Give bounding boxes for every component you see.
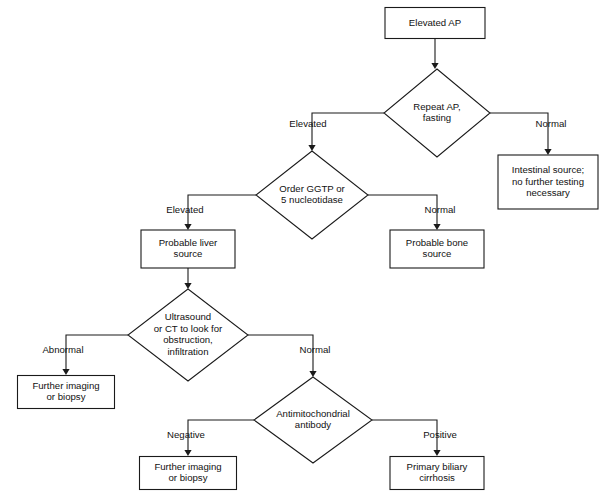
node-text-line: Further imaging — [32, 380, 99, 391]
node-text-line: or CT to look for — [154, 323, 223, 334]
node-text-line: or biopsy — [47, 391, 86, 402]
edge-label: Normal — [300, 344, 331, 355]
flow-edge — [184, 268, 191, 289]
flow-node-ultrasound-ct[interactable]: Ultrasoundor CT to look forobstruction,i… — [128, 289, 248, 381]
node-text-line: source — [174, 248, 203, 259]
flow-node-primary-biliary-cirrhosis[interactable]: Primary biliarycirrhosis — [390, 457, 484, 490]
node-text-line: Further imaging — [154, 461, 221, 472]
node-text-line: source — [423, 248, 452, 259]
edge-label: Elevated — [166, 204, 203, 215]
node-text-line: Intestinal source; — [512, 164, 585, 175]
flow-node-probable-liver-source[interactable]: Probable liversource — [141, 230, 235, 268]
node-text-line: Elevated AP — [409, 17, 461, 28]
flow-edge — [248, 335, 317, 377]
node-text-line: necessary — [526, 187, 570, 198]
arrow-head-icon — [184, 283, 191, 289]
arrow-head-icon — [184, 224, 191, 230]
edge-label: Negative — [167, 429, 205, 440]
arrow-head-icon — [309, 371, 316, 377]
node-text-line: Antimitochondrial — [276, 408, 350, 419]
node-text-line: Repeat AP, — [413, 101, 460, 112]
node-text-line: Ultrasound — [165, 311, 211, 322]
node-text-line: cirrhosis — [419, 472, 455, 483]
flow-node-further-imaging-negative[interactable]: Further imagingor biopsy — [140, 457, 237, 490]
edge-label: Normal — [536, 118, 567, 129]
node-text-line: no further testing — [512, 176, 584, 187]
edge-label: Positive — [423, 429, 457, 440]
flow-node-elevated-ap[interactable]: Elevated AP — [385, 8, 485, 39]
flow-node-antimitochondrial-antibody[interactable]: Antimitochondrialantibody — [254, 377, 372, 463]
nodes-layer: Elevated APRepeat AP,fastingIntestinal s… — [18, 8, 599, 490]
node-text-line: 5 nucleotidase — [281, 194, 343, 205]
node-text-line: infiltration — [167, 346, 208, 357]
flow-edge — [431, 39, 438, 69]
arrow-head-icon — [433, 224, 440, 230]
flow-node-repeat-ap-fasting[interactable]: Repeat AP,fasting — [384, 69, 490, 157]
node-text-line: or biopsy — [169, 472, 208, 483]
arrow-head-icon — [308, 145, 315, 151]
arrow-head-icon — [544, 149, 551, 155]
arrow-head-icon — [431, 63, 438, 69]
flow-node-further-imaging-abnormal[interactable]: Further imagingor biopsy — [18, 376, 115, 409]
flowchart-diagram: Elevated APRepeat AP,fastingIntestinal s… — [0, 0, 605, 495]
node-text-line: antibody — [295, 419, 331, 430]
node-text-line: Order GGTP or — [279, 183, 345, 194]
edge-label: Elevated — [289, 118, 326, 129]
node-text-line: Probable liver — [159, 237, 218, 248]
arrow-head-icon — [62, 369, 69, 375]
flow-node-intestinal-source[interactable]: Intestinal source;no further testingnece… — [498, 155, 598, 209]
flow-node-probable-bone-source[interactable]: Probable bonesource — [390, 230, 484, 268]
edge-label: Normal — [425, 204, 456, 215]
flow-edge — [62, 335, 128, 375]
flow-node-order-ggtp[interactable]: Order GGTP or5 nucleotidase — [256, 151, 368, 239]
node-text-line: Probable bone — [406, 237, 468, 248]
node-text-line: Primary biliary — [407, 461, 468, 472]
arrow-head-icon — [433, 450, 440, 456]
edge-label: Abnormal — [42, 344, 83, 355]
node-text-line: fasting — [423, 112, 451, 123]
arrow-head-icon — [184, 450, 191, 456]
node-text-line: obstruction, — [163, 334, 213, 345]
flowchart-canvas: Elevated APRepeat AP,fastingIntestinal s… — [0, 0, 605, 495]
